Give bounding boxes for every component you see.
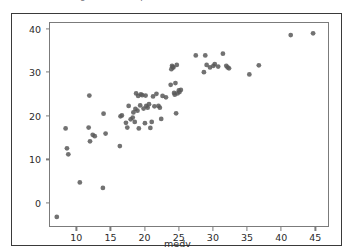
scatter-point bbox=[178, 88, 183, 93]
scatter-point bbox=[203, 53, 208, 58]
scatter-chart: predicted_medv 010203040 101520253035404… bbox=[12, 14, 341, 245]
x-tick-mark bbox=[315, 227, 316, 231]
x-tick-mark bbox=[281, 227, 282, 231]
y-tick-mark bbox=[46, 28, 50, 29]
scatter-point bbox=[87, 93, 92, 98]
scatter-point bbox=[125, 125, 130, 130]
scatter-point bbox=[193, 53, 198, 58]
scatter-point bbox=[174, 111, 179, 116]
x-tick-mark bbox=[110, 227, 111, 231]
scatter-point bbox=[54, 215, 59, 220]
scatter-point bbox=[152, 104, 157, 109]
scatter-point bbox=[143, 121, 148, 126]
y-tick-mark bbox=[46, 115, 50, 116]
scatter-point bbox=[117, 144, 122, 149]
scatter-point bbox=[157, 105, 162, 110]
figure-frame: predicted_medv 010203040 101520253035404… bbox=[11, 13, 342, 246]
scatter-point bbox=[216, 64, 221, 69]
x-tick-mark bbox=[212, 227, 213, 231]
scatter-point bbox=[311, 31, 316, 36]
scatter-points-layer bbox=[50, 23, 328, 226]
scatter-point bbox=[101, 111, 106, 116]
scatter-point bbox=[221, 51, 226, 56]
x-tick-mark bbox=[76, 227, 77, 231]
scatter-point bbox=[124, 120, 129, 125]
scatter-point bbox=[65, 146, 70, 151]
scatter-point bbox=[149, 120, 154, 125]
scatter-point bbox=[101, 186, 106, 191]
scatter-point bbox=[130, 115, 135, 120]
scatter-point bbox=[63, 126, 68, 131]
scatter-point bbox=[86, 125, 91, 130]
x-tick-mark bbox=[144, 227, 145, 231]
scatter-point bbox=[174, 63, 179, 68]
scatter-point bbox=[173, 81, 178, 86]
scatter-point bbox=[66, 152, 71, 157]
scatter-point bbox=[247, 72, 252, 77]
plot-area bbox=[49, 22, 329, 227]
scatter-point bbox=[202, 70, 207, 75]
scatter-point bbox=[227, 66, 232, 71]
y-tick-label: 20 bbox=[29, 110, 41, 121]
scatter-point bbox=[147, 102, 152, 107]
scatter-point bbox=[135, 108, 140, 113]
scatter-point bbox=[168, 82, 173, 87]
scatter-point bbox=[77, 180, 82, 185]
y-tick-label: 0 bbox=[35, 198, 41, 209]
scatter-point bbox=[103, 131, 108, 136]
scatter-point bbox=[159, 117, 164, 122]
scatter-point bbox=[164, 95, 169, 100]
y-tick-label: 30 bbox=[29, 67, 41, 78]
y-tick-mark bbox=[46, 159, 50, 160]
scatter-point bbox=[132, 120, 137, 125]
scatter-point bbox=[288, 33, 293, 38]
y-tick-mark bbox=[46, 72, 50, 73]
scatter-point bbox=[256, 63, 261, 68]
x-tick-mark bbox=[178, 227, 179, 231]
y-tick-mark bbox=[46, 202, 50, 203]
scatter-point bbox=[136, 126, 141, 131]
scatter-point bbox=[154, 91, 159, 96]
scatter-point bbox=[143, 93, 148, 98]
y-tick-label: 40 bbox=[29, 23, 41, 34]
scatter-point bbox=[126, 104, 131, 109]
scatter-point bbox=[92, 134, 97, 139]
x-axis-label: medv bbox=[12, 238, 343, 249]
top-caption-strip: fig. scatter of predicted vs actual medv bbox=[0, 0, 352, 11]
scatter-point bbox=[119, 113, 124, 118]
scatter-point bbox=[148, 126, 153, 131]
scatter-point bbox=[88, 139, 93, 144]
x-tick-mark bbox=[246, 227, 247, 231]
top-caption-text: fig. scatter of predicted vs actual medv bbox=[74, 0, 259, 1]
y-tick-label: 10 bbox=[29, 154, 41, 165]
